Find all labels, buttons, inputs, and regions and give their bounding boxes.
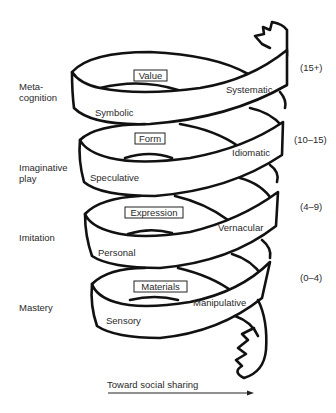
stage-label-imaginative-line1: Imaginative: [19, 162, 68, 173]
stage-label-imaginative-line2: play: [19, 173, 37, 184]
age-range-4-9: (4–9): [300, 201, 322, 212]
mode-personal: Personal: [98, 247, 136, 258]
mode-manipulative: Manipulative: [193, 297, 246, 308]
spiral-loop-imaginative-play: [80, 122, 284, 200]
social-sharing-arrow: Toward social sharing: [107, 379, 254, 396]
stage-label-imitation: Imitation: [19, 232, 55, 243]
mode-systematic: Systematic: [226, 84, 273, 95]
svg-text:Expression: Expression: [131, 207, 178, 218]
age-range-0-4: (0–4): [300, 272, 322, 283]
arrow-head-icon: [247, 391, 254, 396]
ribbon-top-torn-end: [255, 22, 287, 56]
box-materials: Materials: [134, 281, 187, 292]
spiral-loop-imitation: [85, 192, 278, 276]
age-range-15plus: (15+): [300, 62, 322, 73]
mode-vernacular: Vernacular: [218, 222, 263, 233]
stage-label-metacognition-line1: Meta-: [19, 81, 43, 92]
box-expression: Expression: [125, 207, 183, 218]
arrow-label: Toward social sharing: [107, 379, 198, 390]
spiral-diagram: Value Form Expression Materials Symbolic…: [0, 0, 336, 413]
stage-label-mastery: Mastery: [19, 302, 53, 313]
svg-text:Form: Form: [139, 133, 161, 144]
mode-sensory: Sensory: [106, 315, 141, 326]
mode-idiomatic: Idiomatic: [232, 147, 270, 158]
svg-text:Materials: Materials: [141, 281, 180, 292]
stage-label-metacognition-line2: cognition: [19, 92, 57, 103]
mode-symbolic: Symbolic: [95, 107, 134, 118]
mode-speculative: Speculative: [90, 172, 139, 183]
svg-text:Value: Value: [139, 70, 163, 81]
box-form: Form: [135, 133, 165, 144]
age-range-10-15: (10–15): [294, 134, 327, 145]
box-value: Value: [134, 70, 167, 81]
